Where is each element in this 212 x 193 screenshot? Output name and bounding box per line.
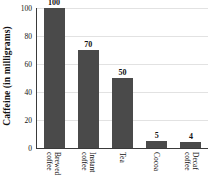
plot-area: 100705054 xyxy=(36,8,208,149)
x-axis-label-line: Decaf xyxy=(191,152,199,171)
x-axis-category-label: Decafcoffee xyxy=(183,152,198,171)
y-axis-tick-label: 20 xyxy=(25,116,33,125)
bar xyxy=(78,50,99,148)
x-axis-label-slot: Tea xyxy=(105,150,139,193)
x-axis-label-slot: Brewedcoffee xyxy=(36,150,70,193)
x-axis-category-label: Cocoa xyxy=(153,152,161,171)
y-axis-tick-label: 40 xyxy=(25,88,33,97)
bar-series: 100705054 xyxy=(37,8,208,148)
x-axis-label-line: coffee xyxy=(46,152,54,175)
x-axis-label-line: Tea xyxy=(118,152,126,163)
x-axis-category-label: Brewedcoffee xyxy=(46,152,61,175)
bar-slot: 4 xyxy=(174,8,208,148)
x-axis-label-line: Brewed xyxy=(53,152,61,175)
x-axis-category-label: Tea xyxy=(118,152,126,163)
x-axis-label-line: Instant xyxy=(88,152,96,172)
bar-slot: 100 xyxy=(37,8,71,148)
y-axis-tick-labels: 020406080100 xyxy=(14,8,34,148)
bar-value-label: 4 xyxy=(189,132,193,141)
bar-value-label: 100 xyxy=(48,0,60,7)
bar-value-label: 5 xyxy=(155,131,159,140)
x-axis-category-label: Instantcoffee xyxy=(80,152,95,172)
x-axis-label-line: Cocoa xyxy=(153,152,161,171)
bar-value-label: 50 xyxy=(119,68,127,77)
x-axis-label-line: coffee xyxy=(80,152,88,172)
x-axis-label-slot: Decafcoffee xyxy=(174,150,208,193)
x-axis-label-slot: Cocoa xyxy=(139,150,173,193)
y-axis-tick-label: 0 xyxy=(28,144,32,153)
y-axis-tick-label: 60 xyxy=(25,60,33,69)
x-axis-category-labels: BrewedcoffeeInstantcoffeeTeaCocoaDecafco… xyxy=(36,150,208,193)
y-axis-tick-label: 100 xyxy=(21,4,32,13)
bar-value-label: 70 xyxy=(84,40,92,49)
bar-slot: 50 xyxy=(105,8,139,148)
bar-slot: 70 xyxy=(71,8,105,148)
bar-slot: 5 xyxy=(140,8,174,148)
x-axis-label-slot: Instantcoffee xyxy=(70,150,104,193)
bar xyxy=(44,8,65,148)
bar xyxy=(112,78,133,148)
y-axis-tick-label: 80 xyxy=(25,32,33,41)
bar-chart: Caffeine (in milligrams) 020406080100 10… xyxy=(0,0,212,193)
x-axis-label-line: coffee xyxy=(183,152,191,171)
y-axis-title-text: Caffeine (in milligrams) xyxy=(2,26,12,126)
bar xyxy=(146,141,167,148)
y-axis-title: Caffeine (in milligrams) xyxy=(0,0,15,152)
bar xyxy=(180,142,201,148)
